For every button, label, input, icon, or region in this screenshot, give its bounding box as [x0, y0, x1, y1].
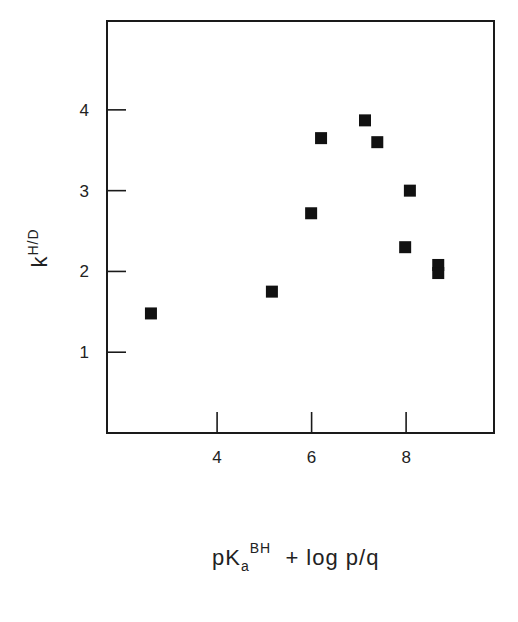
x-axis-ticks: 468	[212, 412, 410, 467]
x-tick-label: 6	[307, 448, 316, 467]
data-point	[266, 286, 278, 298]
data-point	[404, 185, 416, 197]
x-label-sub: a	[241, 558, 250, 574]
data-points	[145, 114, 444, 319]
y-label-sup: H/D	[25, 228, 41, 255]
x-label-sup: BH	[250, 540, 271, 556]
y-axis-title: kH/D	[25, 228, 52, 267]
y-label-main: k	[27, 256, 52, 268]
y-tick-label: 1	[80, 343, 89, 362]
x-label-rest: + log p/q	[271, 545, 379, 570]
plot-frame	[107, 21, 494, 433]
data-point	[315, 132, 327, 144]
y-axis-ticks: 1234	[80, 101, 126, 362]
data-point	[145, 307, 157, 319]
data-point	[359, 114, 371, 126]
y-tick-label: 3	[80, 182, 89, 201]
y-tick-label: 4	[80, 101, 89, 120]
data-point	[432, 267, 444, 279]
x-tick-label: 8	[401, 448, 410, 467]
x-axis-title: pKaBH + log p/q	[212, 540, 379, 574]
data-point	[399, 241, 411, 253]
data-point	[371, 136, 383, 148]
y-tick-label: 2	[80, 262, 89, 281]
data-point	[305, 207, 317, 219]
x-label-main: pK	[212, 545, 241, 570]
scatter-chart: 1234 468 kH/D pKaBH + log p/q	[0, 0, 518, 622]
x-tick-label: 4	[212, 448, 221, 467]
